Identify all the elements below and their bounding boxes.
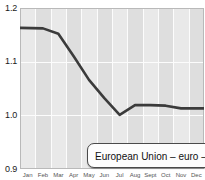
legend[interactable]: European Union – euro – € <box>87 143 205 168</box>
x-axis: JanFebMarAprMayJunJulAugSeptOctNovDec <box>20 171 204 180</box>
x-axis-tick-label: Jun <box>99 171 109 179</box>
x-axis-tick-label: Mar <box>53 171 63 179</box>
x-axis-tick-label: Sept <box>144 171 156 179</box>
line-chart: 0.91.01.11.2 JanFebMarAprMayJunJulAugSep… <box>0 0 205 180</box>
x-axis-tick-label: May <box>83 171 94 179</box>
x-axis-tick-label: Jan <box>23 171 33 179</box>
x-axis-tick-label: Dec <box>191 171 202 179</box>
y-axis-tick-label: 1.1 <box>5 57 17 66</box>
legend-item-label: European Union – euro – € <box>95 151 205 162</box>
y-axis-tick-label: 1.2 <box>5 4 17 13</box>
x-axis-tick-label: Aug <box>130 171 141 179</box>
y-axis: 0.91.01.11.2 <box>0 0 19 180</box>
x-axis-tick-label: Feb <box>38 171 48 179</box>
x-axis-tick-label: Oct <box>161 171 170 179</box>
x-axis-tick-label: Apr <box>69 171 78 179</box>
y-axis-tick-label: 1.0 <box>5 111 17 120</box>
x-axis-tick-label: Jul <box>116 171 124 179</box>
x-axis-tick-label: Nov <box>176 171 187 179</box>
y-axis-tick-label: 0.9 <box>5 165 17 174</box>
